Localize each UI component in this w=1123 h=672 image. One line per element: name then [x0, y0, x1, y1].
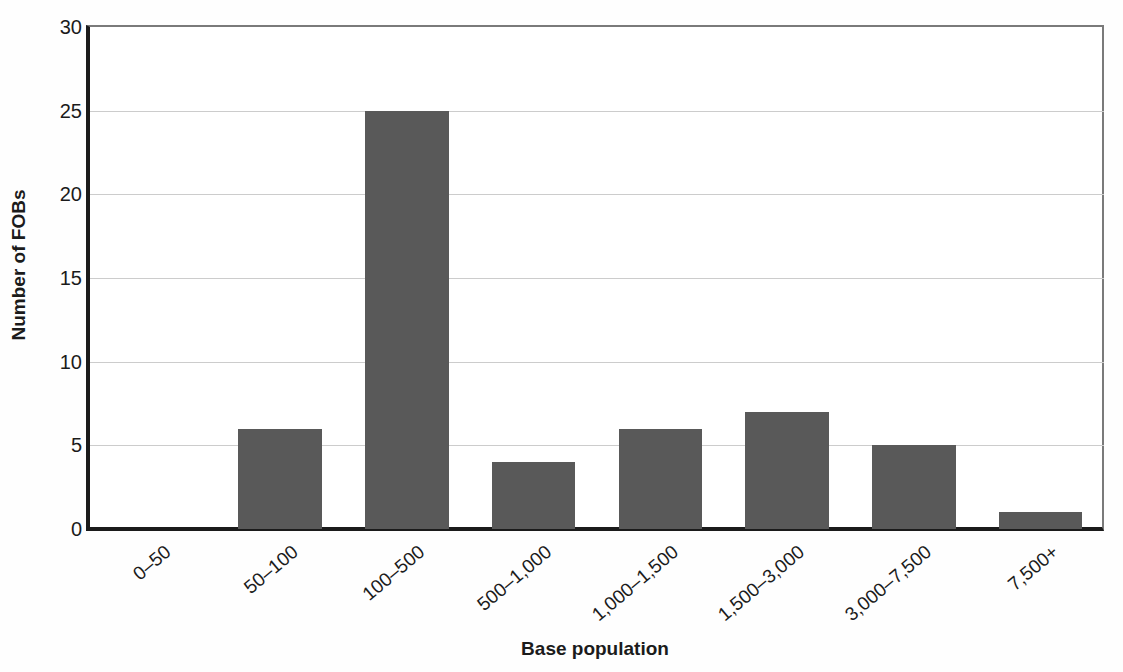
x-tick-label: 7,500+: [1004, 541, 1063, 596]
y-axis-title: Number of FOBs: [4, 160, 34, 370]
gridline-y-10: [90, 362, 1104, 363]
x-tick-label: 1,500–3,000: [714, 541, 809, 626]
bar-chart-figure: Number of FOBs 051015202530 0–5050–10010…: [0, 0, 1123, 672]
x-tick-label: 3,000–7,500: [841, 541, 936, 626]
x-tick-label: 1,000–1,500: [587, 541, 682, 626]
y-tick-label: 0: [38, 519, 82, 539]
y-tick-label: 10: [38, 352, 82, 372]
y-tick-label: 25: [38, 101, 82, 121]
plot-area: [90, 27, 1104, 529]
bar-500–1,000: [492, 462, 576, 529]
bar-7,500+: [999, 512, 1083, 529]
y-axis-title-text: Number of FOBs: [8, 190, 30, 341]
bar-100–500: [365, 111, 449, 529]
bar-1,000–1,500: [619, 429, 703, 529]
y-tick-label: 20: [38, 184, 82, 204]
x-axis-title: Base population: [86, 638, 1104, 660]
x-tick-label: 0–50: [129, 541, 176, 585]
x-tick-label: 100–500: [358, 541, 429, 605]
gridline-y-25: [90, 111, 1104, 112]
x-tick-label: 500–1,000: [473, 541, 556, 616]
y-tick-label: 15: [38, 268, 82, 288]
bar-3,000–7,500: [872, 445, 956, 529]
bar-1,500–3,000: [745, 412, 829, 529]
gridline-y-20: [90, 194, 1104, 195]
y-tick-label: 5: [38, 435, 82, 455]
y-tick-label: 30: [38, 17, 82, 37]
gridline-y-15: [90, 278, 1104, 279]
x-tick-label: 50–100: [240, 541, 303, 599]
bar-50–100: [238, 429, 322, 529]
